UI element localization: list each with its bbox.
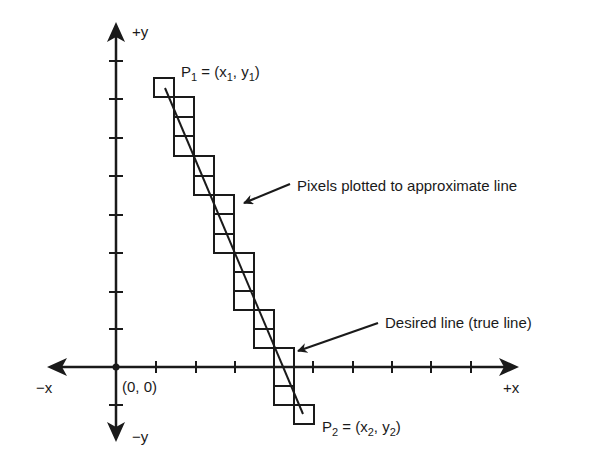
pixels-annotation: Pixels plotted to approximate line <box>297 177 517 194</box>
pixel <box>174 136 194 156</box>
pixel <box>214 214 234 234</box>
neg-y-label: −y <box>132 428 149 445</box>
pixel <box>274 386 294 405</box>
neg-x-label: −x <box>36 379 53 396</box>
pos-y-label: +y <box>132 23 149 40</box>
origin-label: (0, 0) <box>122 378 157 395</box>
pixel <box>234 291 254 310</box>
pixel <box>294 405 314 424</box>
line-rasterization-diagram: +y −y −x +x (0, 0) Pixels plotted to app… <box>0 0 593 472</box>
true-line-callout-arrow <box>298 323 378 351</box>
origin-dot <box>113 364 120 371</box>
p1-label: P1 = (x1, y1) <box>181 63 260 83</box>
pos-x-label: +x <box>503 379 520 396</box>
p2-label: P2 = (x2, y2) <box>322 418 401 438</box>
pixels-callout-arrow <box>244 184 290 203</box>
pixel <box>154 78 174 97</box>
true-line-annotation: Desired line (true line) <box>385 314 532 331</box>
